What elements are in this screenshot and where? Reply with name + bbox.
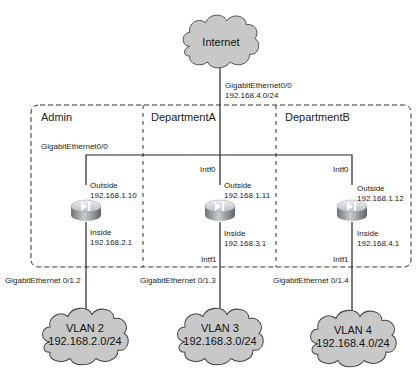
deptb-outside-label: Outside [357,184,385,194]
router-icon [205,200,235,221]
admin-uplink-label: GigabitEthernet0/0 [41,142,108,152]
depta-downlink-label: GigabitEthernet 0/1.3 [140,276,216,286]
admin-downlink-label: GigabitEthernet 0/1.2 [5,276,81,286]
admin-inside-ip: 192.168.2.1 [90,238,132,248]
internet-link-network: 192.168.4.0/24 [225,91,278,101]
internet-label: Internet [196,36,246,49]
deptb-intf1-label: Intf1 [333,255,349,265]
vlan2-text: VLAN 2 192.168.2.0/24 [38,322,132,348]
network-diagram [0,0,416,374]
depta-outside-ip: 192.168.1.11 [224,191,270,201]
area-departmenta-title: DepartmentA [151,111,216,123]
depta-intf1-label: Intf1 [201,255,217,265]
internet-link-interface: GigabitEthernet0/0 [225,81,292,91]
outside-bus [86,155,352,185]
area-departmentb-title: DepartmentB [285,111,350,123]
deptb-downlink-label: GigabitEthernet 0/1.4 [273,276,349,286]
depta-outside-label: Outside [224,181,252,191]
depta-inside-label: Inside [224,229,245,239]
area-admin-title: Admin [41,111,72,123]
deptb-intf0-label: Intf0 [333,165,349,175]
areas-boundary [31,105,411,267]
deptb-inside-label: Inside [357,229,378,239]
router-icon [71,200,101,221]
depta-intf0-label: Intf0 [200,165,216,175]
deptb-inside-ip: 192.168.4.1 [357,239,399,249]
deptb-outside-ip: 192.168.1.12 [357,194,404,204]
depta-inside-ip: 192.168.3.1 [224,239,266,249]
admin-outside-label: Outside [90,181,118,191]
vlan3-text: VLAN 3 192.168.3.0/24 [173,322,267,348]
admin-inside-label: Inside [90,228,111,238]
vlan4-text: VLAN 4 192.168.4.0/24 [306,324,400,350]
admin-outside-ip: 192.168.1.10 [90,191,137,201]
